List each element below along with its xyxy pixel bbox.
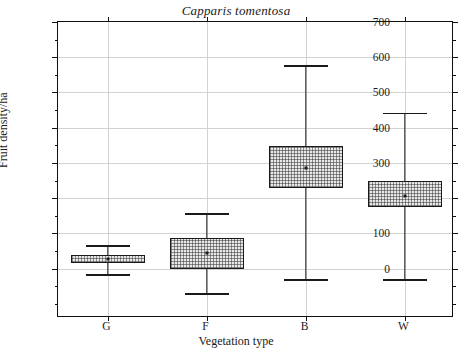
whisker-cap-lower: [383, 279, 427, 281]
x-tick-label-b: B: [301, 320, 309, 332]
x-axis-title: Vegetation type: [0, 334, 472, 349]
whisker-cap-upper: [383, 113, 427, 115]
chart-title: Capparis tomentosa: [0, 3, 472, 19]
plot-area: 0100200300400500600700: [57, 21, 453, 317]
x-tick-label-w: W: [398, 320, 409, 332]
boxplot-w: [58, 22, 454, 316]
box-iqr: [368, 181, 442, 207]
x-tick-label-f: F: [202, 320, 208, 332]
x-tick-label-g: G: [102, 320, 110, 332]
median-marker: [403, 195, 406, 198]
chart-figure: Capparis tomentosa Fruit density/ha Vege…: [0, 0, 472, 351]
y-axis-title: Fruit density/ha: [0, 92, 11, 168]
